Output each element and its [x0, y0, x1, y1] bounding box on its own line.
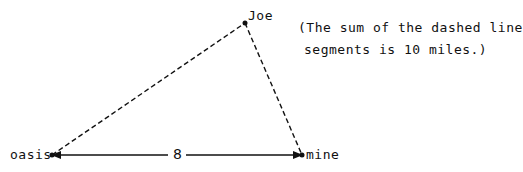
- note-line-1: (The sum of the dashed line: [298, 20, 523, 35]
- note-line-2: segments is 10 miles.): [304, 42, 487, 57]
- mine-label: mine: [306, 147, 339, 162]
- dashed-segment-joe-mine: [245, 23, 302, 155]
- dashed-segment-oasis-joe: [52, 23, 245, 155]
- joe-point: [243, 21, 248, 26]
- joe-label: Joe: [248, 8, 273, 23]
- oasis-label: oasis: [10, 147, 52, 162]
- mine-point: [300, 153, 305, 158]
- distance-label: 8: [173, 146, 182, 162]
